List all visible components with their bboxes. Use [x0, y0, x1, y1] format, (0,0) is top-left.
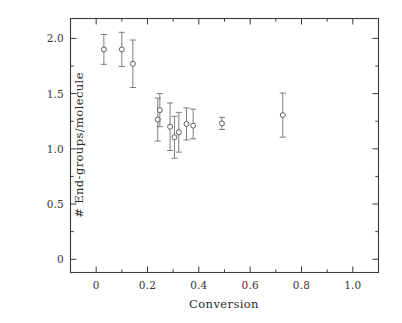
x-tick-label: 0.8 — [293, 279, 310, 291]
data-point-marker — [176, 130, 181, 135]
data-point-errorbar — [280, 93, 286, 137]
data-point-errorbar — [101, 35, 107, 65]
data-point-errorbar — [176, 112, 182, 152]
y-tick-label: 1.5 — [30, 88, 64, 100]
scatter-plot-canvas — [0, 0, 402, 323]
data-point-marker — [157, 108, 162, 113]
x-tick-label: 0.4 — [190, 279, 207, 291]
data-series-errorbar-points — [101, 32, 286, 158]
data-point-marker — [184, 121, 189, 126]
data-point-marker — [101, 47, 106, 52]
axis-ticks — [71, 19, 379, 273]
data-point-marker — [280, 113, 285, 118]
data-point-errorbar — [190, 109, 196, 139]
data-point-marker — [172, 135, 177, 140]
y-tick-label: 0.5 — [30, 198, 64, 210]
data-point-marker — [130, 61, 135, 66]
data-point-marker — [119, 47, 124, 52]
chart-figure: 00.51.01.52.0 00.20.40.60.81.0 Conversio… — [0, 0, 402, 323]
y-tick-label: 0 — [30, 253, 64, 265]
x-tick-label: 0.6 — [242, 279, 259, 291]
data-point-errorbar — [219, 117, 225, 129]
x-tick-label: 0 — [93, 279, 100, 291]
x-axis-title: Conversion — [189, 297, 259, 311]
y-tick-label: 2.0 — [30, 32, 64, 44]
x-tick-label: 1.0 — [344, 279, 361, 291]
x-tick-label: 0.2 — [139, 279, 156, 291]
axes-frame — [71, 19, 379, 273]
data-point-marker — [168, 124, 173, 129]
y-tick-label: 1.0 — [30, 143, 64, 155]
data-point-errorbar — [183, 108, 189, 140]
y-axis-title: # End-groups/molecule — [72, 72, 86, 218]
data-point-errorbar — [119, 32, 125, 66]
data-point-errorbar — [130, 40, 136, 87]
data-point-marker — [219, 121, 224, 126]
data-point-errorbar — [167, 103, 173, 150]
data-point-marker — [191, 123, 196, 128]
plot-border — [71, 19, 379, 273]
